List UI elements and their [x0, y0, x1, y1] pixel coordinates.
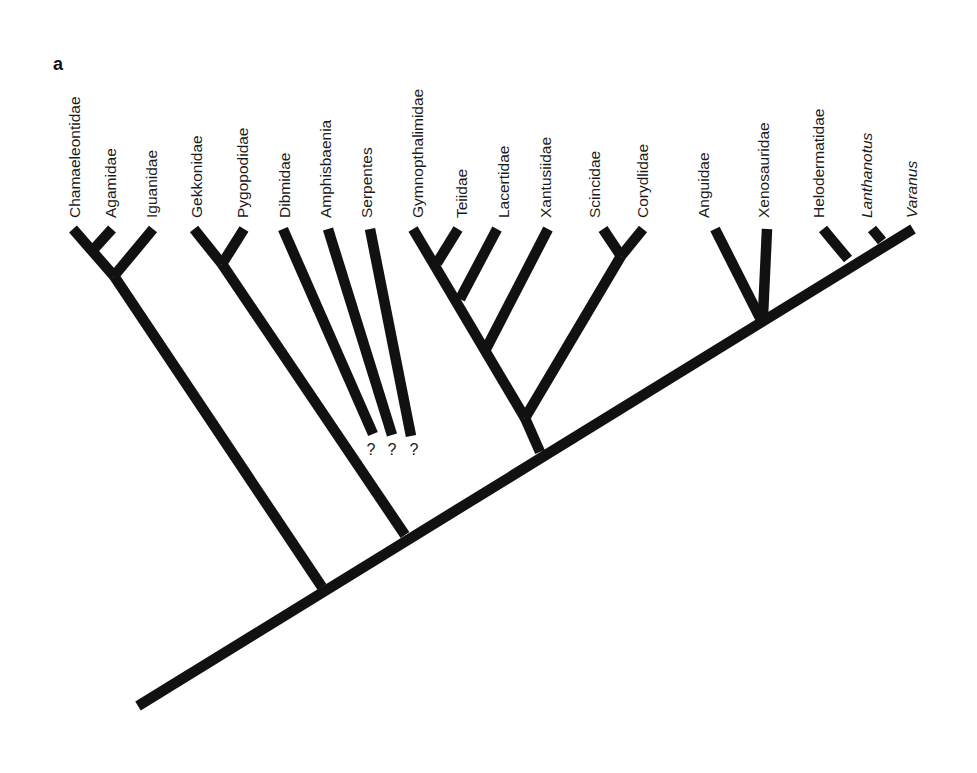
taxon-label-gekkonidae: Gekkonidae: [188, 135, 205, 218]
taxon-label-dibmidae: Dibmidae: [276, 153, 293, 218]
teiidae-branch: [437, 229, 458, 263]
uncertain-placement-marker: ?: [367, 441, 376, 458]
phylogenetic-tree: a ChamaeleontidaeAgamidaeIguanidaeGekkon…: [0, 0, 977, 773]
taxon-label-varanus: Varanus: [903, 161, 920, 218]
taxon-label-xenosauridae: Xenosauridae: [755, 122, 772, 218]
lacertidae-branch: [460, 229, 497, 299]
lanthanotus-branch: [872, 229, 882, 241]
serpentes-branch: [370, 229, 411, 436]
taxon-label-corydlidae: Corydlidae: [634, 144, 651, 218]
scincoidea-stem: [525, 418, 540, 452]
pygopodidae-branch: [222, 229, 244, 264]
taxon-label-helodermatidae: Helodermatidae: [810, 109, 827, 218]
taxon-label-pygopodidae: Pygopodidae: [234, 128, 251, 219]
taxon-label-gymnopthalimidae: Gymnopthalimidae: [409, 89, 426, 218]
taxon-label-lanthanotus: Lanthanotus: [858, 132, 875, 218]
uncertain-placement-markers: ???: [367, 441, 419, 458]
gekkonidae-branch: [194, 229, 222, 264]
taxon-labels: ChamaeleontidaeAgamidaeIguanidaeGekkonid…: [66, 89, 920, 218]
taxon-label-iguanidae: Iguanidae: [143, 150, 160, 218]
taxon-label-amphisbaenia: Amphisbaenia: [317, 119, 334, 218]
corydlidae-branch: [621, 229, 643, 256]
scincid-cordylid-stem: [525, 256, 621, 418]
panel-label: a: [53, 54, 64, 74]
tree-branches: [73, 229, 913, 706]
anguidae-branch: [715, 229, 760, 318]
iguania-stem: [114, 276, 322, 587]
taxon-label-lacertidae: Lacertidae: [495, 146, 512, 218]
taxon-label-teiidae: Teiidae: [453, 169, 470, 218]
taxon-label-agamidae: Agamidae: [102, 148, 119, 218]
lacertoidea-stem: [413, 229, 525, 418]
helodermatidae-branch: [823, 229, 848, 259]
uncertain-placement-marker: ?: [410, 441, 419, 458]
taxon-label-xantusiidae: Xantusiidae: [537, 137, 554, 218]
taxon-label-chamaeleontidae: Chamaeleontidae: [66, 96, 83, 218]
xenosauridae-branch: [763, 229, 767, 316]
taxon-label-serpentes: Serpentes: [358, 147, 375, 218]
taxon-label-scincidae: Scincidae: [586, 151, 603, 218]
uncertain-placement-marker: ?: [388, 441, 397, 458]
iguanidae-branch: [114, 229, 153, 276]
taxon-label-anguidae: Anguidae: [695, 152, 712, 218]
agamidae-branch: [93, 229, 112, 250]
backbone: [138, 229, 913, 706]
xantusiidae-branch: [486, 229, 548, 349]
